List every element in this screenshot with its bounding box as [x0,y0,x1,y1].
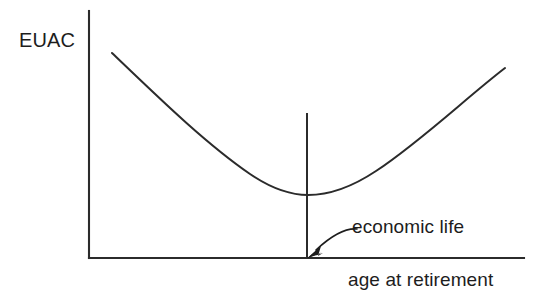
chart-canvas [0,0,559,303]
annotation-arrow-head-fill-icon [308,246,324,258]
y-axis-label: EUAC [19,29,75,52]
x-axis-label: age at retirement [348,269,493,291]
economic-life-annotation-label: economic life [352,216,464,238]
euac-curve [112,53,505,195]
euac-economic-life-figure: EUAC economic life age at retirement [0,0,559,303]
annotation-leader-line [316,229,357,250]
